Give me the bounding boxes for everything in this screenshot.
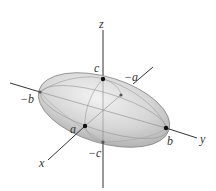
- label-neg-b: −b: [20, 92, 34, 106]
- label-x-axis: x: [38, 156, 45, 170]
- point-pos-b: [164, 126, 168, 130]
- point-pos-a: [83, 124, 87, 128]
- point-pos-c: [101, 77, 105, 81]
- point-neg-a: [119, 93, 122, 96]
- point-neg-b: [38, 90, 41, 93]
- label-neg-c: −c: [88, 146, 102, 160]
- label-pos-b: b: [167, 134, 173, 148]
- label-y-axis: y: [199, 132, 206, 146]
- label-pos-a: a: [70, 122, 76, 136]
- label-neg-a: −a: [124, 70, 138, 84]
- label-pos-c: c: [94, 61, 100, 75]
- label-z-axis: z: [98, 17, 104, 31]
- ellipsoid-figure: z y x c −a −b a b −c: [0, 0, 216, 191]
- ellipsoid-diagram: z y x c −a −b a b −c: [0, 0, 216, 191]
- x-axis: [48, 126, 85, 160]
- neg-b-axis: [10, 83, 40, 92]
- point-neg-c: [101, 140, 104, 143]
